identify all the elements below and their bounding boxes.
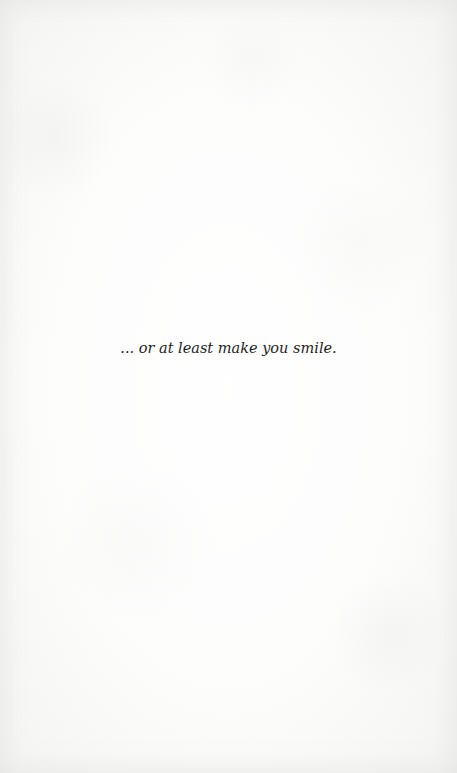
page-quote: ... or at least make you smile. bbox=[0, 338, 457, 358]
book-page: ... or at least make you smile. bbox=[0, 0, 457, 773]
